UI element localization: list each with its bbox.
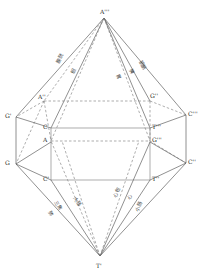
edge-bottom-apex-to-box-bot-right: [100, 180, 150, 256]
vertex-label-box-bot-right: T'': [152, 176, 159, 182]
hidden-edge-apex-to-inner-top-left: [44, 18, 104, 101]
vertex-label-inner-top-right: G'': [150, 93, 158, 99]
vertex-label-inner-top-left: A'': [38, 94, 46, 100]
vertex-label-box-mid-right: G''': [152, 137, 162, 143]
hidden-edge-inner-left-vertical: [44, 101, 51, 141]
hidden-edge-apex-to-box-mid-right: [104, 18, 150, 141]
edge-apex-to-left-upper-outer: [16, 18, 104, 117]
bipyramid-diagram-svg: [0, 0, 203, 278]
edge-bottom-apex-to-box-mid-right: [100, 142, 150, 256]
edge-apex-to-box-top-right: [104, 18, 150, 128]
edge-left-outer-lower-to-box-mid-left: [16, 142, 51, 164]
vertex-label-left-lower-outer: G: [5, 160, 10, 166]
vertex-label-box-top-right: T''': [152, 124, 161, 130]
vertex-label-right-lower-outer: C'': [188, 159, 196, 165]
edge-right-outer-lower-to-box-mid-right: [150, 142, 186, 163]
edge-apex-to-box-top-left: [51, 18, 104, 128]
hidden-edge-inner-top-left-to-left-lower: [16, 101, 44, 164]
vertex-label-box-bot-left: C': [43, 176, 49, 182]
edge-bottom-apex-to-box-bot-left: [51, 180, 100, 256]
figure-canvas: A''' T' G' G C''' C'' A'' G'' C T''' A G…: [0, 0, 203, 278]
vertex-label-apex-top: A''': [100, 9, 109, 15]
hidden-edge-inner-top-left-to-left-outer: [16, 101, 44, 117]
prism-front-face: [51, 128, 150, 180]
edge-bottom-apex-to-right-outer: [100, 163, 186, 256]
hidden-edge-bottom-apex-to-prism-left: [62, 141, 100, 256]
vertex-label-left-upper-outer: G': [5, 113, 11, 119]
vertex-label-apex-bottom: T': [96, 263, 102, 269]
hidden-edge-apex-to-box-mid-left: [51, 18, 104, 141]
hidden-edge-bottom-apex-to-prism-right: [100, 141, 139, 256]
vertex-label-box-mid-left: A: [43, 137, 47, 143]
vertex-label-right-upper-outer: C''': [188, 111, 198, 117]
vertex-label-box-top-left: C: [43, 124, 48, 130]
hidden-edge-inner-top-right-to-right-outer: [150, 101, 186, 115]
